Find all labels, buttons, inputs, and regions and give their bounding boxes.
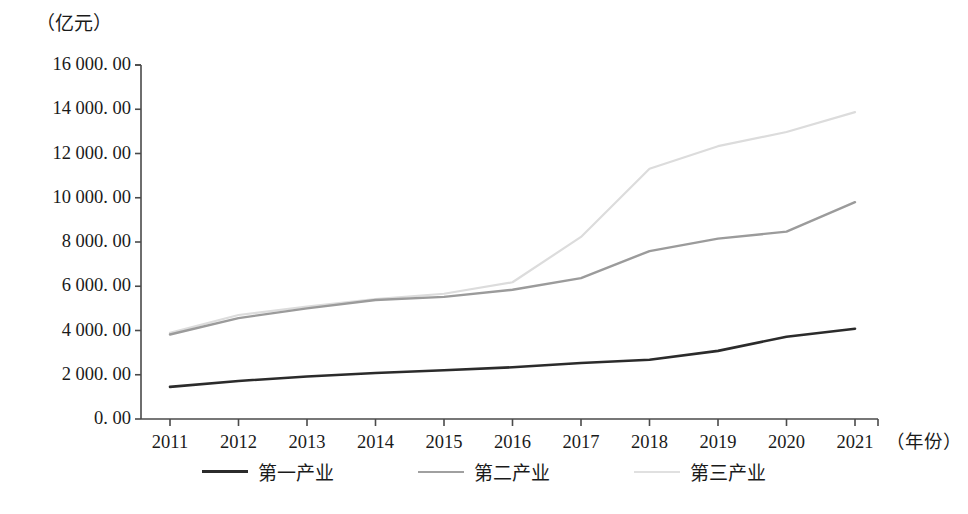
x-axis-unit-label: （年份） [886, 433, 962, 452]
legend-item[interactable]: 第一产业 [202, 458, 334, 485]
legend-line-swatch [634, 471, 680, 473]
legend-line-swatch [418, 471, 464, 473]
legend-label: 第一产业 [258, 458, 334, 485]
x-axis-tick-label: 2016 [478, 433, 548, 452]
series-line-第三产业 [170, 112, 855, 333]
legend-line-swatch [202, 470, 248, 473]
x-axis-tick-label: 2014 [341, 433, 411, 452]
x-axis-tick-label: 2018 [615, 433, 685, 452]
chart-legend: 第一产业第二产业第三产业 [0, 458, 968, 485]
legend-label: 第三产业 [690, 458, 766, 485]
legend-label: 第二产业 [474, 458, 550, 485]
legend-item[interactable]: 第二产业 [418, 458, 550, 485]
x-axis-tick-label: 2015 [409, 433, 479, 452]
line-chart: （亿元） 0. 002 000. 004 000. 006 000. 008 0… [0, 0, 968, 514]
x-axis-tick-label: 2013 [272, 433, 342, 452]
series-line-第二产业 [170, 202, 855, 334]
x-axis-tick-label: 2017 [546, 433, 616, 452]
x-axis-tick-label: 2011 [135, 433, 205, 452]
x-axis-tick-label: 2020 [752, 433, 822, 452]
series-line-第一产业 [170, 329, 855, 387]
x-axis-tick-label: 2019 [683, 433, 753, 452]
x-axis-tick-label: 2021 [820, 433, 890, 452]
x-axis-tick-label: 2012 [204, 433, 274, 452]
legend-item[interactable]: 第三产业 [634, 458, 766, 485]
